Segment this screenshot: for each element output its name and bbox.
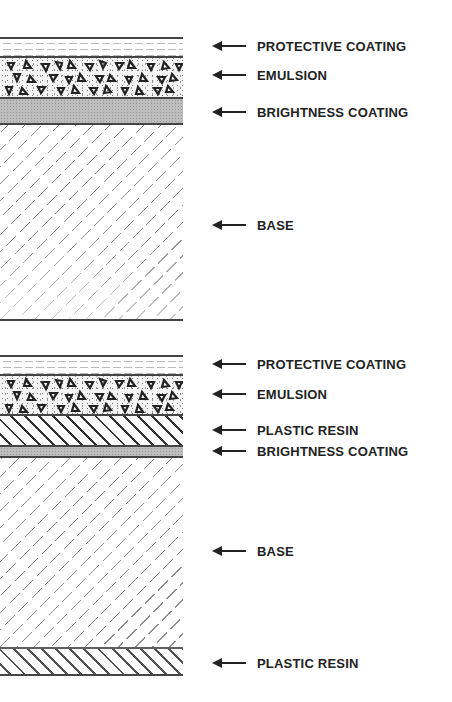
layer-label: PROTECTIVE COATING (257, 357, 406, 372)
arrow-left-icon (212, 389, 246, 399)
layer-label: BASE (257, 218, 294, 233)
label-top-base: BASE (212, 217, 294, 233)
layer-label: BRIGHTNESS COATING (257, 105, 408, 120)
bottom-emulsion-layer (0, 374, 183, 414)
arrow-left-icon (212, 70, 246, 80)
label-top-emulsion: EMULSION (212, 67, 327, 83)
label-top-protective-coating: PROTECTIVE COATING (212, 38, 406, 54)
layer-label: BASE (257, 544, 294, 559)
arrow-left-icon (212, 220, 246, 230)
emulsion-grains-icon (0, 58, 183, 97)
label-bottom-plastic-resin-top: PLASTIC RESIN (212, 422, 359, 438)
layer-label: PLASTIC RESIN (257, 656, 359, 671)
layer-label: PROTECTIVE COATING (257, 39, 406, 54)
arrow-left-icon (212, 658, 246, 668)
bottom-plastic-resin-bottom-layer (0, 647, 183, 675)
arrow-left-icon (212, 107, 246, 117)
layer-label: PLASTIC RESIN (257, 423, 359, 438)
arrow-left-icon (212, 446, 246, 456)
layer-label: EMULSION (257, 387, 327, 402)
arrow-left-icon (212, 41, 246, 51)
top-bottom-edge (0, 319, 183, 321)
top-protective-coating-layer (0, 37, 183, 56)
label-bottom-brightness-coating: BRIGHTNESS COATING (212, 443, 408, 459)
bottom-brightness-coating-layer (0, 445, 183, 458)
top-brightness-coating-layer (0, 97, 183, 125)
bottom-base-layer (0, 458, 183, 647)
arrow-left-icon (212, 425, 246, 435)
layer-label: EMULSION (257, 68, 327, 83)
label-bottom-emulsion: EMULSION (212, 386, 327, 402)
top-base-fade (0, 230, 183, 320)
layer-label: BRIGHTNESS COATING (257, 444, 408, 459)
emulsion-grains-icon (0, 376, 183, 414)
label-bottom-base: BASE (212, 543, 294, 559)
label-bottom-plastic-resin-bottom: PLASTIC RESIN (212, 655, 359, 671)
bottom-bottom-edge (0, 674, 183, 676)
arrow-left-icon (212, 546, 246, 556)
top-emulsion-layer (0, 56, 183, 97)
label-top-brightness-coating: BRIGHTNESS COATING (212, 104, 408, 120)
label-bottom-protective-coating: PROTECTIVE COATING (212, 356, 406, 372)
bottom-plastic-resin-top-layer (0, 414, 183, 445)
bottom-protective-coating-layer (0, 355, 183, 374)
arrow-left-icon (212, 359, 246, 369)
